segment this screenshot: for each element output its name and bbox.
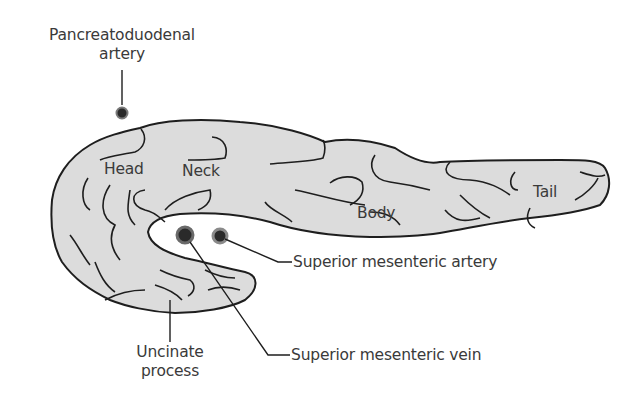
callout-pancreatoduodenal-line2: artery <box>32 45 212 64</box>
label-neck: Neck <box>182 162 220 181</box>
callout-uncinate-line2: process <box>120 362 220 381</box>
sma-vessel <box>213 229 227 243</box>
pancreas-outline <box>51 120 609 313</box>
label-head: Head <box>104 160 144 179</box>
callout-uncinate-line1: Uncinate <box>120 343 220 362</box>
label-body: Body <box>357 204 395 223</box>
pancreatoduodenal-artery-vessel <box>117 108 128 119</box>
callout-pancreatoduodenal-artery: Pancreatoduodenal artery <box>32 26 212 64</box>
callout-superior-mesenteric-artery: Superior mesenteric artery <box>293 253 497 272</box>
callout-uncinate-process: Uncinate process <box>120 343 220 381</box>
smv-vessel <box>177 227 193 243</box>
label-tail: Tail <box>533 183 557 202</box>
callout-superior-mesenteric-vein: Superior mesenteric vein <box>291 346 481 365</box>
sma-leader <box>225 239 292 262</box>
callout-pancreatoduodenal-line1: Pancreatoduodenal <box>32 26 212 45</box>
